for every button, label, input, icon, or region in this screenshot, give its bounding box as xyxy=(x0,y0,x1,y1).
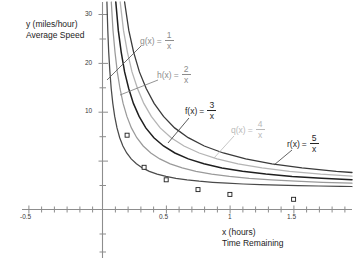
x-tick-label-neg-0-5: -0.5 xyxy=(20,213,31,220)
y-tick-label-20: 20 xyxy=(85,59,92,66)
annotation-q-denominator: x xyxy=(256,131,264,140)
annotation-g-equals: = xyxy=(157,36,162,46)
data-point-marker xyxy=(292,197,296,201)
annotation-g-name: g(x) xyxy=(140,36,155,46)
annotation-g-fraction: 1 x xyxy=(165,31,174,50)
annotation-g-numerator: 1 xyxy=(165,31,174,40)
x-tick-label-1-5: 1.5 xyxy=(287,213,296,220)
annotation-h-fraction: 2 x xyxy=(182,65,191,84)
y-axis-ticks xyxy=(99,15,109,253)
annotation-r-numerator: 5 xyxy=(310,134,319,143)
curve-g xyxy=(107,2,352,187)
annotation-h-equals: = xyxy=(174,70,179,80)
annotation-q-equals: = xyxy=(248,125,253,135)
leader-line-g xyxy=(107,46,141,80)
data-point-marker xyxy=(228,192,232,196)
y-tick-label-10: 10 xyxy=(85,107,92,114)
annotation-q-name: q(x) xyxy=(231,125,246,135)
x-axis-title-line2: Time Remaining xyxy=(222,239,284,249)
annotation-f-name: f(x) xyxy=(185,106,197,116)
leader-line-f xyxy=(168,118,189,143)
annotation-f-fraction: 3 x xyxy=(207,101,216,120)
annotation-f-denominator: x xyxy=(208,112,216,121)
annotation-h-name: h(x) xyxy=(157,70,172,80)
hyperbola-chart: y (miles/hour) Average Speed x (hours) T… xyxy=(0,0,361,266)
x-tick-label-0-5: 0.5 xyxy=(159,213,168,220)
annotation-h-numerator: 2 xyxy=(182,65,191,74)
annotation-h-denominator: x xyxy=(182,76,190,85)
annotation-r-fraction: 5 x xyxy=(310,134,319,153)
curves-group xyxy=(107,2,352,187)
annotation-h: h(x) = 2 x xyxy=(157,65,191,84)
data-point-marker xyxy=(164,178,168,182)
y-axis-title-line2: Average Speed xyxy=(26,31,84,41)
y-tick-label-30: 30 xyxy=(85,10,92,17)
curve-h xyxy=(111,2,352,183)
annotation-q-fraction: 4 x xyxy=(256,120,265,139)
data-point-marker xyxy=(142,165,146,169)
data-point-marker xyxy=(196,188,200,192)
y-axis-title-line1: y (miles/hour) xyxy=(26,20,77,30)
annotation-r-name: r(x) xyxy=(287,139,300,149)
annotation-r-denominator: x xyxy=(310,145,318,154)
annotation-r: r(x) = 5 x xyxy=(287,134,319,153)
annotation-g-denominator: x xyxy=(165,42,173,51)
annotation-q-numerator: 4 xyxy=(256,120,265,129)
annotation-g: g(x) = 1 x xyxy=(140,31,174,50)
x-axis-title-line1: x (hours) xyxy=(222,228,256,238)
x-tick-label-1: 1 xyxy=(228,213,232,220)
curve-f-markers xyxy=(125,133,296,201)
annotation-f-numerator: 3 xyxy=(207,101,216,110)
annotation-f-equals: = xyxy=(199,106,204,116)
data-point-marker xyxy=(125,133,129,137)
annotation-r-equals: = xyxy=(302,139,307,149)
annotation-f: f(x) = 3 x xyxy=(185,101,216,120)
annotation-q: q(x) = 4 x xyxy=(231,120,265,139)
